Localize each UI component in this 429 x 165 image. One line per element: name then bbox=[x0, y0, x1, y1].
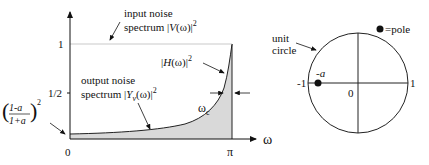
svg-text:1-a: 1-a bbox=[9, 102, 22, 113]
svg-text:2: 2 bbox=[37, 98, 41, 107]
output-noise-label: output noise spectrum |Yv(ω)|2 bbox=[81, 74, 157, 129]
filter-response-label: |H(ω)|2 bbox=[161, 54, 224, 73]
spectrum-plot: ω 1 1/2 0 π input noise spectrum |V(ω)|2… bbox=[2, 7, 272, 159]
origin-label: 0 bbox=[348, 87, 354, 99]
pole-legend: =pole bbox=[377, 23, 411, 35]
input-noise-label: input noise spectrum |V(ω)|2 bbox=[110, 7, 197, 40]
svg-text:input noise: input noise bbox=[124, 7, 173, 19]
svg-text:spectrum |V(ω)|2: spectrum |V(ω)|2 bbox=[124, 19, 197, 34]
legend-pole-symbol bbox=[377, 26, 384, 33]
y-tick-label-one: 1 bbox=[58, 38, 64, 50]
svg-text:=pole: =pole bbox=[385, 23, 410, 35]
y-tick-label-half: 1/2 bbox=[48, 87, 62, 99]
unit-circle-label: unit circle bbox=[272, 32, 316, 56]
x-tick-label-zero: 0 bbox=[65, 146, 71, 158]
pole-zero-plot: -a -1 1 0 unit circle =pole bbox=[272, 23, 416, 133]
x-tick-label-pi: π bbox=[227, 145, 233, 159]
pole-marker bbox=[315, 80, 322, 87]
svg-text:ωc: ωc bbox=[198, 101, 210, 117]
tick-label-one: 1 bbox=[410, 77, 416, 89]
tick-label-minus-one: -1 bbox=[297, 77, 306, 89]
min-value-label: ( 1-a 1+a ) 2 bbox=[2, 98, 65, 134]
svg-text:circle: circle bbox=[272, 44, 297, 56]
diagram-canvas: ω 1 1/2 0 π input noise spectrum |V(ω)|2… bbox=[0, 0, 429, 165]
x-axis-label: ω bbox=[263, 132, 272, 147]
svg-text:output noise: output noise bbox=[81, 74, 135, 86]
svg-text:1+a: 1+a bbox=[9, 115, 26, 126]
svg-text:spectrum |Yv(ω)|2: spectrum |Yv(ω)|2 bbox=[81, 86, 157, 103]
svg-text:|H(ω)|2: |H(ω)|2 bbox=[161, 54, 192, 69]
svg-text:unit: unit bbox=[272, 32, 289, 44]
pole-label: -a bbox=[316, 67, 326, 79]
